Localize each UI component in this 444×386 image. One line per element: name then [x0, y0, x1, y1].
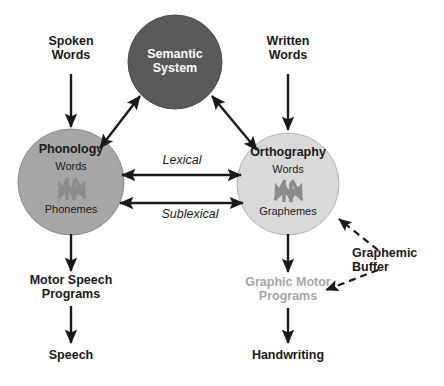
circle-orthography — [237, 133, 339, 235]
circle-semantic-system — [128, 15, 222, 109]
diagram-graphics — [0, 0, 444, 386]
arrow-buffer-to-graphic-motor — [326, 270, 378, 290]
arrow-buffer-to-orthography — [339, 219, 378, 250]
arrow-orthography-semantic — [212, 96, 257, 150]
arrow-phonology-semantic — [100, 96, 140, 148]
circle-phonology — [18, 129, 124, 235]
diagram-canvas: Semantic System Phonology Words Phonemes… — [0, 0, 444, 386]
